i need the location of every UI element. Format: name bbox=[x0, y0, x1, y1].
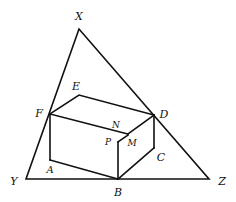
label-e: E bbox=[71, 80, 80, 93]
edge-d-m bbox=[128, 115, 154, 134]
label-b: B bbox=[113, 186, 122, 199]
label-c: C bbox=[157, 151, 166, 164]
label-z: Z bbox=[217, 175, 226, 188]
label-a: A bbox=[45, 164, 53, 175]
label-y: Y bbox=[10, 175, 19, 188]
geometry-diagram: X Y Z E F D N P M A B C bbox=[0, 0, 236, 202]
label-m: M bbox=[126, 138, 137, 148]
label-n: N bbox=[111, 120, 121, 130]
label-f: F bbox=[34, 107, 43, 120]
label-d: D bbox=[159, 108, 169, 121]
edge-c-b bbox=[118, 148, 154, 179]
edge-a-b bbox=[50, 160, 118, 179]
label-x: X bbox=[74, 10, 84, 23]
label-p: P bbox=[104, 137, 112, 147]
